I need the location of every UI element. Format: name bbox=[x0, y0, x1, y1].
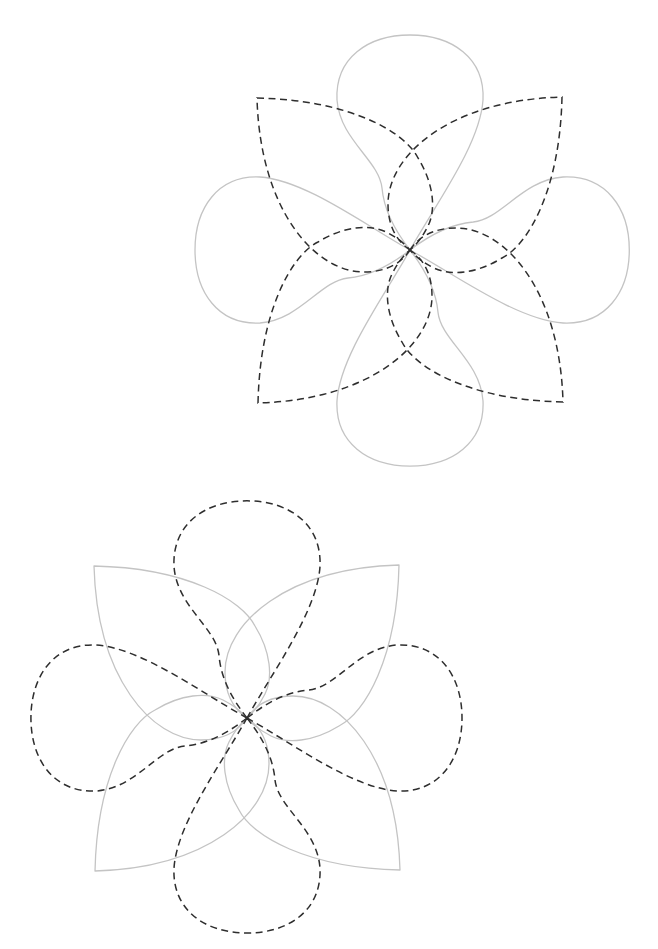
teardrop-lobe-left bbox=[195, 177, 410, 323]
teardrop-lobe-down bbox=[337, 250, 483, 466]
teardrop-lobe-up bbox=[337, 35, 483, 250]
top-figure bbox=[195, 35, 629, 466]
top-figure-leaves bbox=[257, 97, 563, 403]
teardrop-lobe-right bbox=[410, 177, 629, 323]
teardrop-lobe-right bbox=[247, 645, 462, 791]
top-figure-teardrop-lobes bbox=[195, 35, 629, 466]
diagram-canvas bbox=[0, 0, 658, 949]
bottom-figure bbox=[31, 501, 462, 933]
teardrop-lobe-left bbox=[31, 645, 247, 791]
teardrop-lobe-up bbox=[174, 501, 320, 718]
teardrop-lobe-down bbox=[174, 718, 320, 933]
